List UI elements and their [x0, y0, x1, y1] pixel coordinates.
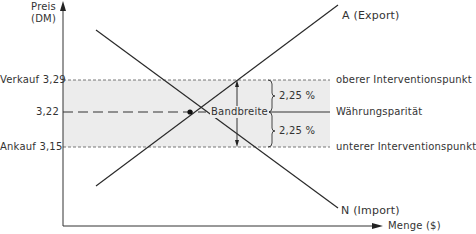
upper-level-label: Verkauf 3,29	[0, 74, 59, 86]
y-axis-arrow-icon	[60, 1, 66, 11]
lower-percentage-label: 2,25 %	[279, 125, 315, 137]
lower-level-label: Ankauf 3,15	[0, 141, 59, 153]
parity-label: Währungsparität	[336, 106, 422, 118]
x-axis-arrow-icon	[372, 223, 383, 229]
demand-curve-label: N (Import)	[341, 205, 400, 217]
equilibrium-point	[187, 109, 192, 114]
parity-level-label: 3,22	[0, 106, 59, 118]
supply-curve-label: A (Export)	[342, 10, 400, 22]
lower-intervention-label: unterer Interventionspunkt	[336, 141, 476, 153]
bandwidth-label: Bandbreite	[210, 106, 269, 118]
upper-intervention-label: oberer Interventionspunkt	[336, 74, 472, 86]
x-axis-label: Menge ($)	[388, 220, 441, 232]
upper-percentage-label: 2,25 %	[279, 90, 315, 102]
y-axis-label: Preis (DM)	[22, 1, 56, 25]
